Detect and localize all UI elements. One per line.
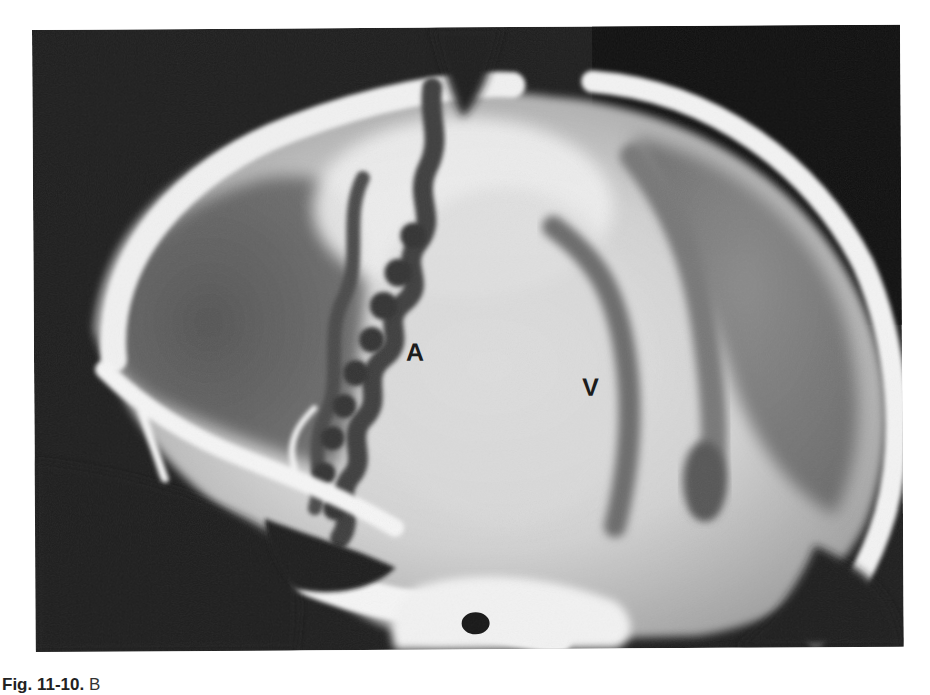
- label-a-artery: A: [406, 340, 424, 365]
- caption-text: B: [89, 675, 100, 694]
- label-v-vein: V: [582, 375, 599, 400]
- radiograph-figure: A V: [32, 25, 904, 652]
- figure-caption: Fig. 11-10. B: [2, 675, 100, 695]
- figure-number: Fig. 11-10.: [2, 675, 84, 694]
- skull-xray-image: [32, 25, 904, 652]
